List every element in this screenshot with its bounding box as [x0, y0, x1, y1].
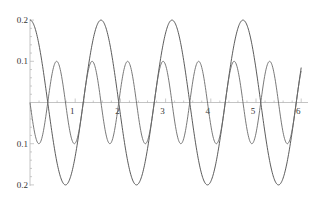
y-tick-label: 0.2	[17, 180, 28, 190]
y-tick-label: 0.2	[17, 15, 28, 25]
x-tick-label: 5	[251, 106, 256, 116]
x-tick-label: 3	[160, 106, 165, 116]
chart: 1234560.20.10.10.2	[0, 0, 316, 202]
x-tick-label: 1	[70, 106, 75, 116]
y-tick-label: 0.1	[17, 56, 28, 66]
y-tick-label: 0.1	[17, 139, 28, 149]
axes	[30, 19, 308, 186]
x-tick-label: 6	[296, 106, 301, 116]
